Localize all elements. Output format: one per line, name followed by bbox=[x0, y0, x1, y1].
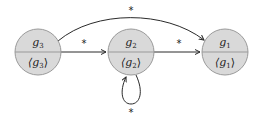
edge-g2-self-loop: * bbox=[122, 75, 140, 118]
node-g3: g3 ⟨g3⟩ bbox=[15, 29, 61, 75]
edge-g2-g1: * bbox=[154, 38, 200, 52]
edge-label: * bbox=[177, 38, 182, 49]
node-g1: g1 ⟨g1⟩ bbox=[202, 29, 248, 75]
node-state-label: ⟨g1⟩ bbox=[215, 56, 235, 70]
edge-label: * bbox=[129, 107, 134, 118]
edge-label: * bbox=[82, 38, 87, 49]
node-state-label: ⟨g3⟩ bbox=[28, 56, 48, 70]
node-state-label: ⟨g2⟩ bbox=[121, 56, 141, 70]
state-diagram: * * * * g3 ⟨g3⟩ g2 ⟨g2⟩ g1 ⟨g1⟩ bbox=[0, 0, 264, 121]
edge-label: * bbox=[129, 5, 134, 16]
node-g2: g2 ⟨g2⟩ bbox=[108, 29, 154, 75]
edge-g3-g2: * bbox=[61, 38, 106, 52]
